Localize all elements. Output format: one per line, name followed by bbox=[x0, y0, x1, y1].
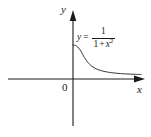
y-axis-label: y bbox=[61, 4, 66, 15]
fraction-denominator: 1+x2 bbox=[92, 39, 116, 50]
equation-annotation: y = 1 1+x2 bbox=[77, 27, 115, 49]
origin-label: 0 bbox=[62, 82, 68, 93]
y-axis-arrowhead bbox=[70, 10, 77, 21]
equals-sign: = bbox=[83, 33, 88, 43]
x-axis-arrowhead bbox=[134, 76, 145, 83]
function-curve bbox=[73, 45, 141, 74]
denominator-plus: + bbox=[98, 39, 105, 49]
plot-canvas bbox=[0, 0, 151, 137]
function-graph-figure: y x 0 y = 1 1+x2 bbox=[0, 0, 151, 137]
denominator-exponent: 2 bbox=[110, 36, 113, 43]
equation-lhs: y bbox=[77, 33, 81, 43]
fraction: 1 1+x2 bbox=[92, 27, 116, 49]
x-axis-label: x bbox=[137, 84, 142, 95]
